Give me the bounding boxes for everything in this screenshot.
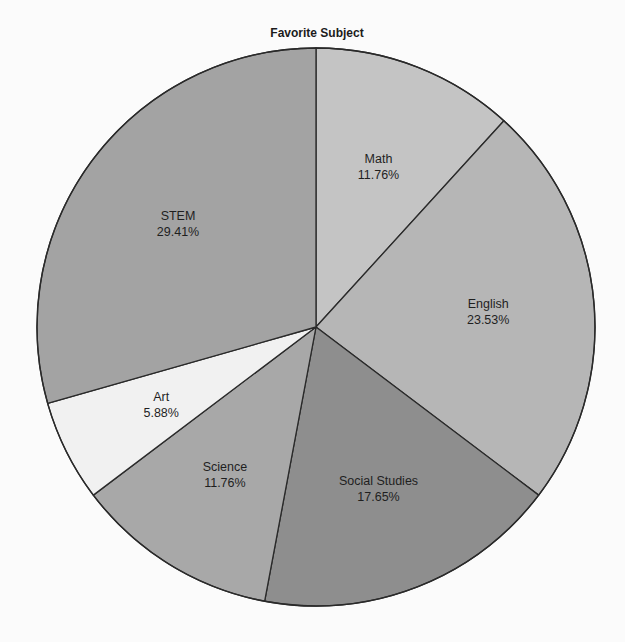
- pie-chart: Math11.76%English23.53%Social Studies17.…: [0, 0, 625, 642]
- pie-slices: [37, 48, 595, 606]
